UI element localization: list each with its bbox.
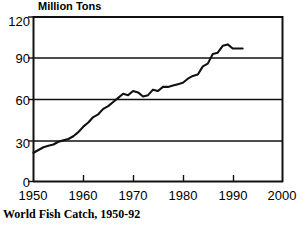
y-axis-ticks (28, 17, 33, 182)
figure-caption: World Fish Catch, 1950-92 (3, 207, 140, 221)
data-line-world-fish-catch (34, 44, 243, 152)
x-axis-ticks (84, 175, 234, 181)
gridlines (33, 58, 283, 141)
plot-area (0, 0, 303, 228)
chart-figure: Million Tons 120 90 60 30 0 1950 1960 19… (0, 0, 303, 228)
